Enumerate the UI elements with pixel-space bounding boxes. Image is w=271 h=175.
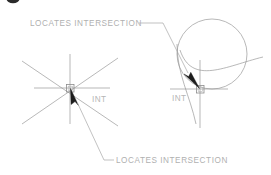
page-bullet-fragment [7,0,20,3]
figure-canvas: LOCATES INTERSECTION LOCATES INTERSECTIO… [0,0,271,175]
right-snap-label-int: INT [172,94,186,103]
bottom-callout-label: LOCATES INTERSECTION [116,156,228,165]
cad-intersection-figure: LOCATES INTERSECTION LOCATES INTERSECTIO… [0,0,271,175]
left-diagram-geometry [22,54,118,126]
left-cursor-arrow [71,89,79,106]
top-callout-label: LOCATES INTERSECTION [30,19,142,28]
top-callout-leader [139,23,188,73]
right-cursor-arrow [184,72,200,88]
left-snap-label-int: INT [92,95,106,104]
right-diagram-geometry [170,19,263,128]
bottom-callout-leader [78,103,115,160]
